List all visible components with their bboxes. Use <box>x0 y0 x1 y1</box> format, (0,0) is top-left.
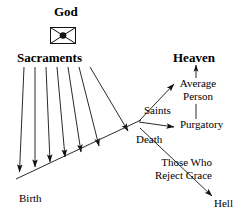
god-envelope-symbol <box>51 28 76 44</box>
node-label-average-person-line1: Average <box>177 78 219 90</box>
death-to-purgatory-arrow <box>139 122 174 127</box>
diagram-canvas: God Sacraments Heaven Saints Average Per… <box>0 0 252 223</box>
node-label-birth: Birth <box>19 193 42 205</box>
sacrament-arrow-4 <box>57 67 65 157</box>
node-label-god: God <box>54 5 78 19</box>
node-label-hell: Hell <box>214 198 233 210</box>
sacrament-arrow-1 <box>20 67 25 172</box>
node-label-sacraments: Sacraments <box>17 51 82 65</box>
sacrament-arrow-7 <box>90 67 128 131</box>
sacrament-arrow-3 <box>46 67 50 162</box>
node-label-reject-grace-line2: Reject Grace <box>140 170 212 182</box>
sacrament-grace-arrows <box>20 67 129 172</box>
node-label-average-person-line2: Person <box>177 91 219 103</box>
diagram-vector-layer <box>0 0 252 223</box>
node-label-reject-grace-line1: Those Who <box>140 157 212 169</box>
node-label-heaven: Heaven <box>173 51 215 65</box>
node-label-saints: Saints <box>144 105 171 117</box>
node-label-death: Death <box>136 134 162 146</box>
sacrament-arrow-6 <box>79 67 99 146</box>
node-label-purgatory: Purgatory <box>180 119 223 131</box>
sacrament-arrow-5 <box>68 67 81 152</box>
